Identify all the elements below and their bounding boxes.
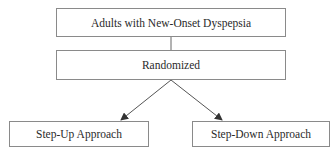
- node-population: Adults with New-Onset Dyspepsia: [56, 8, 286, 37]
- node-randomized: Randomized: [56, 50, 286, 80]
- node-randomized-label: Randomized: [142, 59, 200, 71]
- node-step-down-label: Step-Down Approach: [211, 128, 311, 140]
- arrow-to-step-up: [121, 80, 171, 120]
- node-step-up: Step-Up Approach: [9, 121, 149, 147]
- node-step-up-label: Step-Up Approach: [36, 128, 122, 140]
- arrow-to-step-down: [171, 80, 222, 120]
- node-population-label: Adults with New-Onset Dyspepsia: [91, 17, 251, 29]
- node-step-down: Step-Down Approach: [192, 121, 330, 147]
